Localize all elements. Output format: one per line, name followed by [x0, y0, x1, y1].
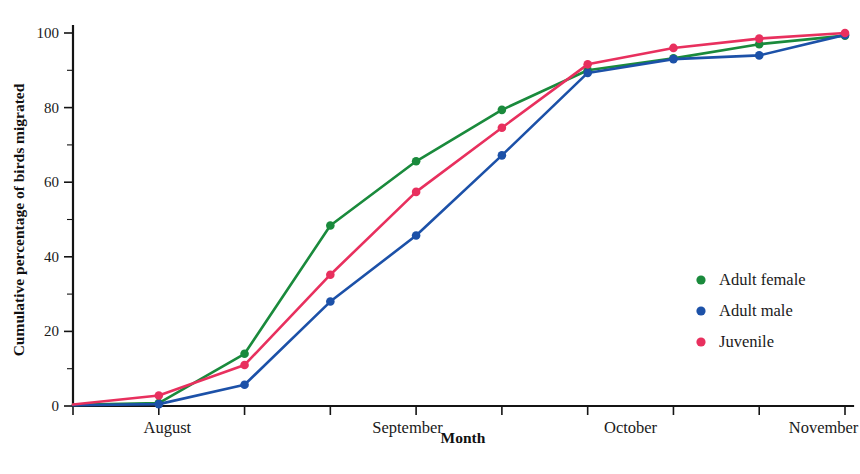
false: [696, 337, 705, 346]
x-tick-label: September: [372, 418, 443, 437]
y-tick-label: 60: [44, 174, 59, 190]
legend-label: Adult female: [719, 270, 806, 289]
x-tick-label: August: [144, 418, 192, 437]
migration-line-chart: 020406080100 AugustSeptemberOctoberNovem…: [0, 0, 860, 474]
data-point: [669, 44, 678, 53]
x-tick-label: November: [789, 418, 859, 437]
legend-item[interactable]: Juvenile: [696, 332, 774, 351]
chart-legend: Adult femaleAdult maleJuvenile: [696, 270, 805, 351]
data-point: [154, 400, 163, 409]
data-series-group: [73, 29, 849, 409]
series-adult-male: [73, 31, 849, 409]
data-point: [412, 188, 421, 197]
y-tick-label: 80: [44, 100, 59, 116]
data-point: [240, 361, 249, 370]
x-tick-label: October: [604, 418, 658, 437]
data-point: [412, 157, 421, 166]
false: [696, 306, 705, 315]
data-point: [326, 221, 335, 230]
legend-item[interactable]: Adult male: [696, 301, 792, 320]
legend-item[interactable]: Adult female: [696, 270, 805, 289]
y-tick-label: 40: [44, 249, 59, 265]
data-point: [326, 297, 335, 306]
data-point: [498, 151, 507, 160]
data-point: [841, 29, 850, 38]
data-point: [498, 123, 507, 132]
data-point: [669, 55, 678, 64]
data-point: [412, 231, 421, 240]
legend-label: Juvenile: [719, 332, 774, 351]
y-axis-title: Cumulative percentage of birds migrated: [10, 83, 27, 356]
y-tick-label: 20: [44, 323, 59, 339]
data-point: [240, 349, 249, 358]
data-point: [755, 34, 764, 43]
y-tick-label: 0: [52, 398, 60, 414]
chart-canvas: 020406080100 AugustSeptemberOctoberNovem…: [0, 0, 860, 474]
y-axis: 020406080100: [37, 25, 74, 414]
data-point: [583, 69, 592, 78]
data-point: [583, 60, 592, 69]
series-adult-female: [73, 31, 849, 407]
x-axis-title: Month: [441, 429, 486, 446]
data-point: [326, 270, 335, 279]
data-point: [755, 51, 764, 60]
false: [696, 275, 705, 284]
data-point: [154, 391, 163, 400]
legend-label: Adult male: [719, 301, 793, 320]
y-tick-label: 100: [37, 25, 60, 41]
data-point: [498, 106, 507, 115]
data-point: [240, 380, 249, 389]
